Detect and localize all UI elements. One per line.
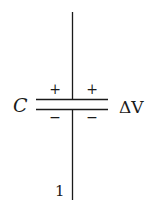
plus-sign-left: + [49, 81, 61, 97]
minus-sign-left: − [49, 109, 61, 125]
wire-label: 1 [55, 182, 65, 200]
voltage-label: ΔV [119, 97, 144, 117]
capacitor-diagram: + + − − C ΔV 1 [0, 0, 155, 205]
capacitance-label: C [13, 94, 28, 116]
minus-sign-right: − [86, 109, 98, 125]
plus-sign-right: + [86, 81, 98, 97]
